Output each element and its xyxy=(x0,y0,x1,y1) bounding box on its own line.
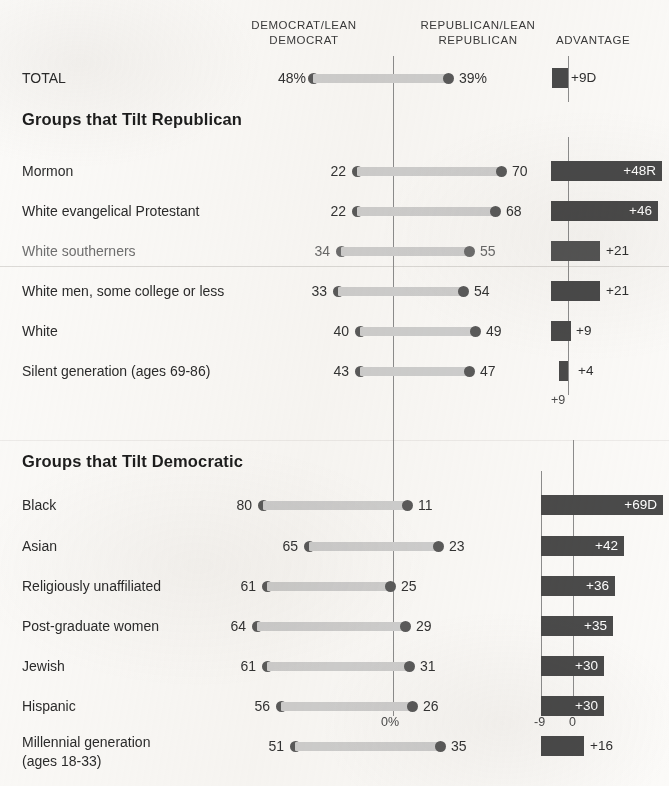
row-value-republican: 47 xyxy=(480,356,536,386)
dot-republican xyxy=(385,581,396,592)
table-row: Post-graduate women 64 29 +35 xyxy=(0,611,669,641)
advantage-label: +48R xyxy=(551,156,656,186)
row-value-democrat: 34 xyxy=(274,236,330,266)
dot-republican xyxy=(464,366,475,377)
table-row: White evangelical Protestant 22 68 +46 xyxy=(0,196,669,226)
row-label: Jewish xyxy=(22,651,65,681)
connector-bar xyxy=(263,501,406,510)
scan-seam xyxy=(0,440,669,441)
table-row: Religiously unaffiliated 61 25 +36 xyxy=(0,571,669,601)
dotplot-zero-tick-label: 0% xyxy=(381,715,399,729)
advantage-label: +36 xyxy=(541,571,609,601)
dot-republican xyxy=(470,326,481,337)
connector-bar xyxy=(257,622,404,631)
row-label: TOTAL xyxy=(22,63,66,93)
section-title-democratic: Groups that Tilt Democratic xyxy=(22,452,243,471)
table-row: TOTAL 48% 39% +9D xyxy=(0,63,669,93)
row-label: White southerners xyxy=(22,236,136,266)
advantage-label: +69D xyxy=(541,490,657,520)
row-value-democrat: 48% xyxy=(240,63,306,93)
row-label: Silent generation (ages 69-86) xyxy=(22,356,210,386)
advantage-bar xyxy=(559,361,568,381)
table-row: White men, some college or less 33 54 +2… xyxy=(0,276,669,306)
row-value-republican: 29 xyxy=(416,611,472,641)
advantage-label: +9D xyxy=(571,63,641,93)
row-value-democrat: 56 xyxy=(214,691,270,721)
dot-republican xyxy=(490,206,501,217)
connector-bar xyxy=(360,327,474,336)
row-value-democrat: 51 xyxy=(228,731,284,761)
advantage-bar xyxy=(551,321,571,341)
table-row: Asian 65 23 +42 xyxy=(0,531,669,561)
row-label: Hispanic xyxy=(22,691,76,721)
dot-republican xyxy=(407,701,418,712)
table-row: Mormon 22 70 +48R xyxy=(0,156,669,186)
row-value-democrat: 61 xyxy=(200,651,256,681)
advantage-bar xyxy=(552,68,568,88)
advantage-label: +42 xyxy=(541,531,618,561)
advantage-label: +21 xyxy=(606,236,666,266)
row-value-republican: 25 xyxy=(401,571,457,601)
advantage-label: +30 xyxy=(541,651,598,681)
advantage-republican-tick-label: +9 xyxy=(551,393,565,407)
row-label: White evangelical Protestant xyxy=(22,196,199,226)
advantage-label: +4 xyxy=(578,356,638,386)
connector-bar xyxy=(313,74,447,83)
connector-bar xyxy=(357,167,500,176)
row-value-democrat: 40 xyxy=(293,316,349,346)
row-value-republican: 39% xyxy=(459,63,529,93)
row-value-democrat: 64 xyxy=(190,611,246,641)
row-value-democrat: 43 xyxy=(293,356,349,386)
row-value-republican: 31 xyxy=(420,651,476,681)
connector-bar xyxy=(267,662,408,671)
row-label: White men, some college or less xyxy=(22,276,224,306)
advantage-label: +46 xyxy=(551,196,652,226)
row-value-democrat: 65 xyxy=(242,531,298,561)
row-label: Black xyxy=(22,490,56,520)
row-label: Millennial generation (ages 18-33) xyxy=(22,733,150,771)
row-value-republican: 11 xyxy=(418,490,474,520)
dot-republican xyxy=(433,541,444,552)
connector-bar xyxy=(341,247,468,256)
row-value-republican: 23 xyxy=(449,531,505,561)
dot-republican xyxy=(458,286,469,297)
table-row: Millennial generation (ages 18-33) 51 35… xyxy=(0,731,669,771)
dot-republican xyxy=(404,661,415,672)
row-value-republican: 49 xyxy=(486,316,542,346)
row-value-democrat: 80 xyxy=(196,490,252,520)
section-title-republican: Groups that Tilt Republican xyxy=(22,110,242,129)
row-value-republican: 26 xyxy=(423,691,479,721)
connector-bar xyxy=(295,742,439,751)
column-header-republican: REPUBLICAN/LEAN REPUBLICAN xyxy=(396,18,560,48)
column-header-democrat: DEMOCRAT/LEAN DEMOCRAT xyxy=(218,18,390,48)
connector-bar xyxy=(267,582,389,591)
table-row: White southerners 34 55 +21 xyxy=(0,236,669,266)
advantage-bar xyxy=(551,281,600,301)
scan-seam xyxy=(0,266,669,267)
connector-bar xyxy=(357,207,494,216)
table-row: White 40 49 +9 xyxy=(0,316,669,346)
row-label: Post-graduate women xyxy=(22,611,159,641)
table-row: Black 80 11 +69D xyxy=(0,490,669,520)
row-value-republican: 54 xyxy=(474,276,530,306)
table-row: Jewish 61 31 +30 xyxy=(0,651,669,681)
row-value-democrat: 22 xyxy=(290,196,346,226)
row-value-democrat: 33 xyxy=(271,276,327,306)
advantage-bar xyxy=(551,241,600,261)
row-label: White xyxy=(22,316,58,346)
dot-republican xyxy=(402,500,413,511)
advantage-label: +35 xyxy=(541,611,607,641)
dot-republican xyxy=(443,73,454,84)
dot-republican xyxy=(496,166,507,177)
advantage-zero-tick-label: 0 xyxy=(569,715,576,729)
connector-bar xyxy=(309,542,437,551)
dot-republican xyxy=(400,621,411,632)
row-label: Mormon xyxy=(22,156,73,186)
connector-bar xyxy=(281,702,411,711)
connector-bar xyxy=(360,367,468,376)
advantage-label: +16 xyxy=(590,731,650,761)
dot-republican xyxy=(464,246,475,257)
advantage-minus9-tick-label: -9 xyxy=(534,715,545,729)
row-label: Religiously unaffiliated xyxy=(22,571,161,601)
row-value-democrat: 61 xyxy=(200,571,256,601)
